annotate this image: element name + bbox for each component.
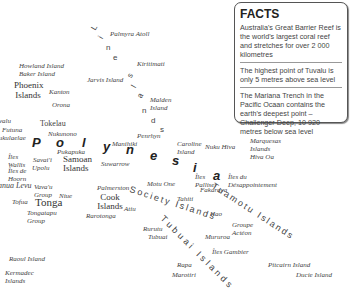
label-tokelau: Tokelau bbox=[40, 120, 66, 128]
label-marotiri: Marotiri bbox=[172, 271, 196, 279]
line-islands-letter: n bbox=[142, 106, 146, 115]
label-tongatapu: Tongatapu Group bbox=[27, 209, 59, 225]
label-desappointement: Îles du Désappointement bbox=[228, 173, 282, 189]
fact-item: The Mariana Trench in the Pacific Ocaan … bbox=[240, 91, 342, 136]
label-marquesas: Marquesas Islands bbox=[250, 137, 282, 153]
label-rapa: Rapa bbox=[177, 261, 192, 269]
divider bbox=[240, 62, 342, 63]
label-gambier: Îles Gambier bbox=[212, 248, 249, 256]
label-ducie: Ducie Island bbox=[296, 271, 332, 279]
label-acteon: Groupe Actéon bbox=[232, 221, 256, 237]
label-raoul: Raoul Island bbox=[9, 255, 45, 263]
label-samoan: Samoan Islands bbox=[63, 155, 103, 173]
label-orona: Orona bbox=[52, 101, 70, 109]
label-futuna: Futuna bbox=[2, 126, 22, 134]
region-letter: P bbox=[32, 135, 41, 150]
label-savaii: Savai'i bbox=[33, 156, 52, 164]
line-islands-letter: s bbox=[125, 72, 135, 80]
label-kiritimati: Kiritimati bbox=[137, 60, 165, 68]
line-islands-letter: a bbox=[135, 91, 145, 99]
label-suwarrow: Suwarrow bbox=[101, 160, 130, 168]
label-phoenix: Phoenix Islands bbox=[14, 80, 42, 100]
label-kanton: Kanton bbox=[49, 88, 70, 96]
label-penrhyn: Penrhyn bbox=[137, 132, 161, 140]
label-kermadec: Kermadec Islands bbox=[5, 269, 33, 285]
label-atiu: Atiu bbox=[124, 205, 136, 213]
label-hao: Hao bbox=[210, 210, 222, 218]
label-mururoa: Mururoa bbox=[205, 233, 230, 241]
region-letter: y bbox=[103, 139, 110, 154]
label-nukulaelae: Nukulaelae bbox=[0, 134, 26, 142]
fact-item: Australia's Great Barrier Reef is the wo… bbox=[240, 23, 342, 59]
label-caroline: Caroline Island bbox=[177, 140, 201, 156]
facts-box: FACTS Australia's Great Barrier Reef is … bbox=[234, 2, 348, 123]
label-cook: Cook Islands bbox=[95, 193, 125, 211]
facts-title: FACTS bbox=[240, 7, 342, 21]
label-pitcairn: Pitcairn Island bbox=[268, 261, 310, 269]
line-islands-letter: d bbox=[151, 116, 155, 125]
label-palmerston: Palmerston bbox=[97, 184, 129, 192]
label-nukuhiva: Nuku Hiva bbox=[205, 143, 235, 151]
label-rarotonga: Rarotonga bbox=[86, 212, 116, 220]
label-malden: Malden Island bbox=[150, 96, 176, 112]
label-tofua: Tofua bbox=[12, 198, 28, 206]
line-islands-letter: n bbox=[106, 43, 110, 52]
label-baker: Baker Island bbox=[19, 70, 55, 78]
region-letter: e bbox=[150, 148, 157, 163]
label-vanualevu: Vanua Levu bbox=[0, 182, 32, 190]
label-motuone: Motu One bbox=[147, 180, 175, 188]
label-rurutu: Rurutu bbox=[143, 225, 162, 233]
label-howland: Howland Island bbox=[19, 62, 64, 70]
label-hivaoa: Hiva Oa bbox=[250, 153, 274, 161]
divider bbox=[240, 87, 342, 88]
label-manihiki: Manihiki bbox=[112, 140, 137, 148]
line-islands-letter: L bbox=[89, 23, 99, 31]
label-jarvis: Jarvis Island bbox=[87, 76, 123, 84]
label-tonga: Tonga bbox=[35, 197, 62, 207]
label-tubuai: Tubuai bbox=[148, 233, 167, 241]
line-islands-letter: l bbox=[130, 83, 139, 89]
label-palmyra: Palmyra Atoll bbox=[110, 30, 149, 38]
fact-item: The highest point of Tuvalu is only 5 me… bbox=[240, 66, 342, 84]
label-tuvalu: Tuvalu bbox=[0, 117, 11, 125]
line-islands-letter: i bbox=[97, 34, 106, 40]
line-islands-letter: e bbox=[113, 53, 117, 62]
